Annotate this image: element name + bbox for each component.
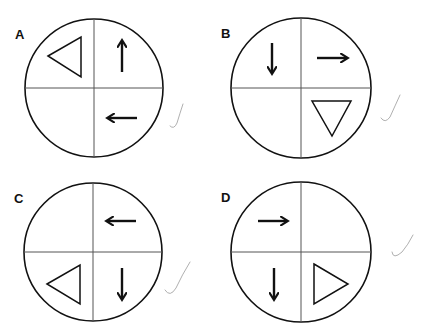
triangle-left-icon: [47, 265, 80, 304]
option-d[interactable]: D: [221, 182, 413, 322]
options-diagram: ABCD: [0, 0, 426, 336]
triangle-down-icon: [312, 101, 351, 136]
option-label: A: [15, 27, 25, 42]
checkmark-icon: [392, 235, 413, 256]
option-label: D: [221, 190, 230, 205]
option-label: C: [14, 191, 24, 206]
option-c[interactable]: C: [14, 183, 190, 321]
option-label: B: [221, 26, 230, 41]
triangle-right-icon: [314, 264, 348, 304]
checkmark-icon: [170, 104, 183, 127]
checkmark-icon: [165, 262, 190, 294]
option-b[interactable]: B: [221, 18, 400, 158]
option-a[interactable]: A: [15, 19, 183, 157]
triangle-left-icon: [48, 37, 81, 77]
checkmark-icon: [381, 95, 400, 121]
